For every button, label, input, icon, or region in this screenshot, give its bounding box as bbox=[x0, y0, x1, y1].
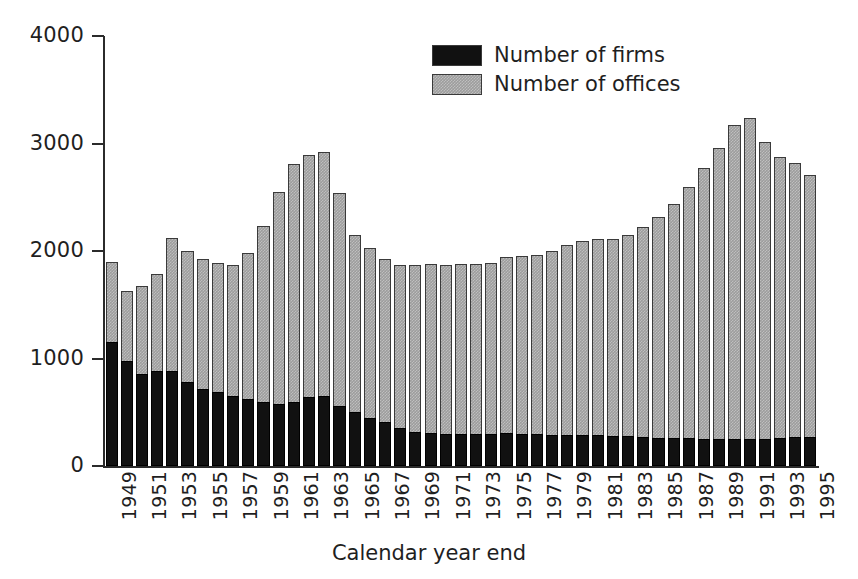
x-axis-tick-label-1979: 1979 bbox=[575, 471, 594, 520]
bar-1964 bbox=[333, 193, 345, 466]
x-axis-tick-label-1969: 1969 bbox=[423, 471, 442, 520]
bar-segment-firms bbox=[409, 432, 421, 466]
bar-1979 bbox=[561, 245, 573, 466]
x-axis-tick-label-1965: 1965 bbox=[363, 471, 382, 520]
bar-segment-firms bbox=[181, 382, 193, 466]
bar-segment-firms bbox=[425, 433, 437, 466]
bar-segment-firms bbox=[257, 402, 269, 467]
bar-1954 bbox=[181, 251, 193, 466]
bar-segment-offices bbox=[683, 187, 695, 467]
x-axis-tick-label-1983: 1983 bbox=[636, 471, 655, 520]
bar-segment-firms bbox=[622, 436, 634, 466]
x-axis-title: Calendar year end bbox=[0, 541, 858, 565]
bar-segment-offices bbox=[759, 142, 771, 466]
x-axis-tick-label-1953: 1953 bbox=[180, 471, 199, 520]
bar-1967 bbox=[379, 259, 391, 466]
legend-swatch-firms-icon bbox=[432, 45, 482, 66]
bar-1969 bbox=[409, 265, 421, 466]
bar-segment-firms bbox=[273, 404, 285, 466]
y-axis-tick bbox=[92, 250, 104, 252]
y-axis-tick bbox=[92, 143, 104, 145]
bar-segment-firms bbox=[774, 438, 786, 466]
bar-1981 bbox=[592, 239, 604, 466]
bar-segment-firms bbox=[698, 439, 710, 466]
bar-segment-offices bbox=[546, 251, 558, 466]
bar-segment-firms bbox=[394, 428, 406, 466]
bar-segment-offices bbox=[607, 239, 619, 466]
bar-1993 bbox=[774, 157, 786, 466]
bar-segment-offices bbox=[622, 235, 634, 466]
bar-segment-firms bbox=[318, 396, 330, 466]
bar-segment-firms bbox=[455, 434, 467, 466]
bar-1955 bbox=[197, 259, 209, 466]
bar-1965 bbox=[349, 235, 361, 466]
bar-1970 bbox=[425, 264, 437, 466]
bar-segment-firms bbox=[151, 371, 163, 466]
bar-segment-firms bbox=[728, 439, 740, 466]
bar-1994 bbox=[789, 163, 801, 466]
legend-label-firms: Number of firms bbox=[494, 45, 665, 66]
x-axis-tick-label-1987: 1987 bbox=[697, 471, 716, 520]
bar-1953 bbox=[166, 238, 178, 466]
bar-segment-firms bbox=[485, 434, 497, 466]
y-axis-tick-label: 3000 bbox=[0, 133, 84, 154]
bar-1983 bbox=[622, 235, 634, 466]
bar-segment-firms bbox=[683, 438, 695, 466]
bar-1960 bbox=[273, 192, 285, 466]
y-axis-tick bbox=[92, 35, 104, 37]
bar-1963 bbox=[318, 152, 330, 466]
bar-1980 bbox=[576, 241, 588, 466]
x-axis-tick-label-1971: 1971 bbox=[454, 471, 473, 520]
y-axis-tick-label: 2000 bbox=[0, 240, 84, 261]
bar-segment-firms bbox=[668, 438, 680, 466]
bar-1973 bbox=[470, 264, 482, 466]
chart-legend: Number of firms Number of offices bbox=[432, 44, 681, 102]
bar-1966 bbox=[364, 248, 376, 466]
bar-segment-offices bbox=[713, 148, 725, 466]
bar-segment-firms bbox=[607, 436, 619, 466]
y-axis-tick bbox=[92, 465, 104, 467]
y-axis-tick-label: 4000 bbox=[0, 25, 84, 46]
bar-segment-firms bbox=[546, 435, 558, 466]
x-axis-tick-label-1981: 1981 bbox=[606, 471, 625, 520]
bar-segment-firms bbox=[561, 435, 573, 466]
bar-segment-offices bbox=[637, 227, 649, 466]
bar-1982 bbox=[607, 239, 619, 466]
bar-segment-firms bbox=[136, 374, 148, 466]
bar-segment-offices bbox=[592, 239, 604, 466]
bar-1986 bbox=[668, 204, 680, 466]
legend-label-offices: Number of offices bbox=[494, 74, 681, 95]
bar-segment-firms bbox=[516, 434, 528, 466]
bar-segment-firms bbox=[106, 342, 118, 466]
bar-segment-firms bbox=[303, 397, 315, 466]
x-axis-tick-label-1977: 1977 bbox=[545, 471, 564, 520]
bar-1957 bbox=[227, 265, 239, 466]
bar-1988 bbox=[698, 168, 710, 466]
bar-segment-firms bbox=[637, 437, 649, 466]
x-axis-tick-label-1985: 1985 bbox=[666, 471, 685, 520]
bar-segment-firms bbox=[212, 392, 224, 466]
bar-1958 bbox=[242, 253, 254, 466]
y-axis-tick-label: 0 bbox=[0, 455, 84, 476]
bar-1962 bbox=[303, 155, 315, 466]
bar-1995 bbox=[804, 175, 816, 466]
y-axis-tick bbox=[92, 358, 104, 360]
x-axis-tick-label-1951: 1951 bbox=[150, 471, 169, 520]
bar-segment-firms bbox=[744, 439, 756, 466]
bar-1978 bbox=[546, 251, 558, 466]
x-axis-tick-label-1967: 1967 bbox=[393, 471, 412, 520]
x-axis-line bbox=[103, 466, 819, 468]
bar-segment-firms bbox=[349, 412, 361, 466]
bar-segment-firms bbox=[242, 399, 254, 466]
bar-segment-firms bbox=[440, 434, 452, 466]
bar-segment-firms bbox=[379, 422, 391, 466]
legend-item-firms: Number of firms bbox=[432, 44, 681, 67]
bar-1961 bbox=[288, 164, 300, 466]
x-axis-tick-label-1949: 1949 bbox=[120, 471, 139, 520]
x-axis-tick-label-1959: 1959 bbox=[272, 471, 291, 520]
bar-segment-firms bbox=[576, 435, 588, 466]
bar-1972 bbox=[455, 264, 467, 466]
bar-segment-firms bbox=[470, 434, 482, 466]
bar-segment-firms bbox=[121, 361, 133, 466]
bar-1950 bbox=[121, 291, 133, 466]
